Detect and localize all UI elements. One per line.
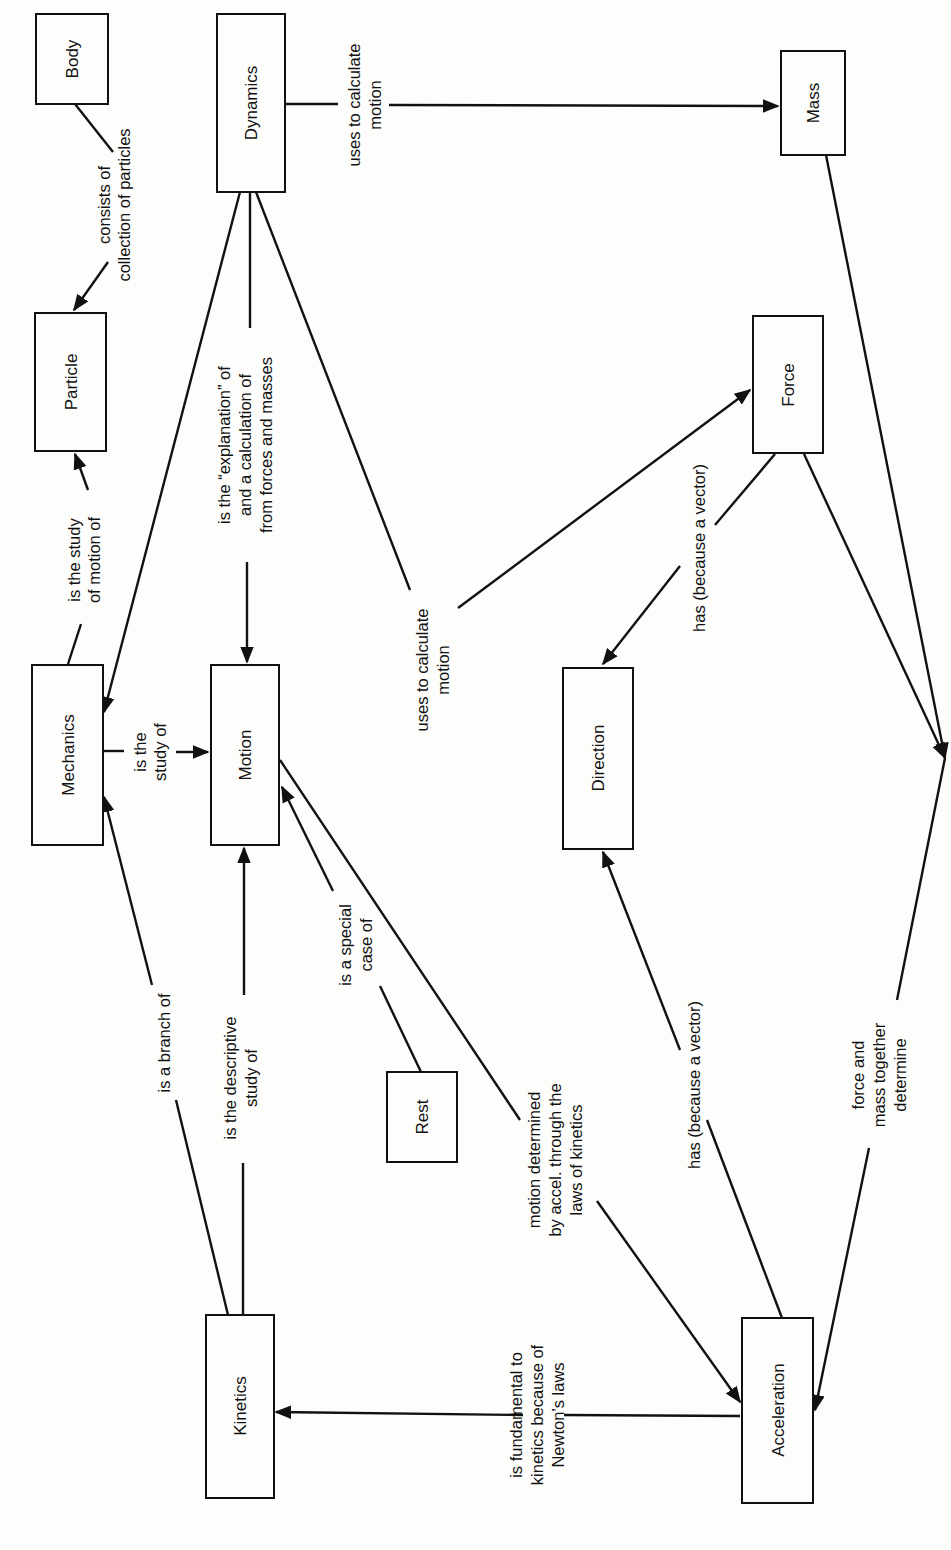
- node-mechanics: Mechanics: [32, 665, 103, 845]
- svg-text:is fundamental to: is fundamental to: [507, 1352, 525, 1478]
- node-dynamics: Dynamics: [217, 14, 285, 192]
- svg-text:Particle: Particle: [62, 354, 81, 411]
- label-force-mass-determine: force and mass together determine: [849, 1022, 909, 1127]
- svg-text:Rest: Rest: [413, 1099, 432, 1134]
- svg-text:Mass: Mass: [804, 83, 823, 124]
- svg-text:Acceleration: Acceleration: [769, 1363, 788, 1457]
- node-mass: Mass: [781, 51, 845, 155]
- label-special-case: is a special case of: [336, 904, 375, 986]
- svg-text:and a calculation of: and a calculation of: [236, 373, 254, 516]
- label-descriptive-study: is the descriptive study of: [221, 1017, 260, 1140]
- label-fundamental-to-kinetics: is fundamental to kinetics because of Ne…: [507, 1344, 567, 1485]
- label-uses-to-calc-force: uses to calculate motion: [413, 609, 452, 732]
- svg-text:is the “explanation” of: is the “explanation” of: [215, 366, 233, 524]
- svg-text:laws of kinetics: laws of kinetics: [567, 1105, 585, 1216]
- svg-text:uses to calculate: uses to calculate: [345, 44, 363, 167]
- svg-text:Mechanics: Mechanics: [59, 714, 78, 795]
- node-rest: Rest: [387, 1072, 457, 1162]
- concept-map: consists of collection of particles is t…: [0, 0, 951, 1550]
- svg-text:Motion: Motion: [236, 729, 255, 780]
- svg-text:Kinetics: Kinetics: [231, 1376, 250, 1436]
- svg-text:is the study: is the study: [65, 518, 83, 602]
- label-force-has-direction: has (because a vector): [690, 464, 708, 632]
- svg-text:Dynamics: Dynamics: [242, 66, 261, 141]
- node-direction: Direction: [563, 668, 633, 849]
- edge-force-mass-acceleration: [804, 155, 945, 1410]
- edge-dynamics-force: [256, 192, 750, 608]
- label-is-a-branch-of: is a branch of: [155, 993, 173, 1092]
- svg-text:mass together: mass together: [870, 1022, 888, 1127]
- node-motion: Motion: [211, 665, 279, 845]
- svg-text:has (because a vector): has (because a vector): [685, 1001, 703, 1169]
- node-particle: Particle: [35, 313, 106, 451]
- svg-text:Newton’s laws: Newton’s laws: [549, 1362, 567, 1467]
- label-consists-of: consists of collection of particles: [95, 128, 133, 281]
- label-uses-to-calc-mass: uses to calculate motion: [345, 44, 384, 167]
- svg-text:case of: case of: [357, 918, 375, 972]
- label-accel-has-direction: has (because a vector): [685, 1001, 703, 1169]
- svg-text:is the descriptive: is the descriptive: [221, 1017, 239, 1140]
- svg-text:study of: study of: [151, 723, 169, 781]
- svg-text:has (because a vector): has (because a vector): [690, 464, 708, 632]
- svg-text:study of: study of: [242, 1049, 260, 1107]
- svg-text:from forces and masses: from forces and masses: [257, 357, 275, 533]
- svg-text:uses to calculate: uses to calculate: [413, 609, 431, 732]
- node-force: Force: [753, 316, 823, 453]
- label-is-the-study-of: is the study of: [131, 723, 169, 781]
- svg-text:motion: motion: [366, 80, 384, 130]
- node-kinetics: Kinetics: [206, 1315, 274, 1498]
- svg-text:force and: force and: [849, 1041, 867, 1110]
- label-motion-determined: motion determined by accel. through the …: [525, 1083, 585, 1236]
- svg-text:is a special: is a special: [336, 904, 354, 986]
- edge-motion-acceleration: [280, 760, 740, 1402]
- svg-text:collection of particles: collection of particles: [115, 128, 133, 281]
- node-body: Body: [36, 14, 108, 104]
- svg-text:motion: motion: [434, 645, 452, 695]
- node-acceleration: Acceleration: [742, 1318, 813, 1503]
- svg-text:Body: Body: [63, 39, 82, 78]
- svg-text:by accel. through the: by accel. through the: [546, 1083, 564, 1236]
- svg-text:of motion of: of motion of: [85, 516, 103, 603]
- svg-text:consists of: consists of: [95, 166, 113, 244]
- svg-text:is a branch of: is a branch of: [155, 993, 173, 1092]
- label-study-of-motion-of: is the study of motion of: [65, 516, 103, 603]
- svg-text:determine: determine: [891, 1038, 909, 1111]
- svg-text:is the: is the: [131, 732, 149, 771]
- svg-text:Direction: Direction: [589, 724, 608, 791]
- label-explanation-of: is the “explanation” of and a calculatio…: [215, 357, 275, 533]
- svg-text:kinetics because of: kinetics because of: [528, 1344, 546, 1485]
- svg-text:Force: Force: [779, 363, 798, 406]
- edge-force-direction: [603, 454, 775, 664]
- svg-text:motion determined: motion determined: [525, 1092, 543, 1229]
